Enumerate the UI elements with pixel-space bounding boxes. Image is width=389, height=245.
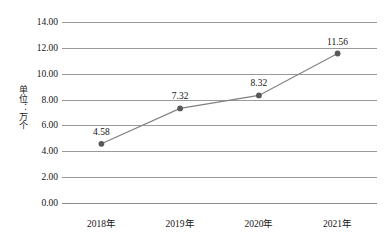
data-point-label: 4.58: [93, 127, 110, 137]
line-chart: 单位：万个 14.0012.0010.008.006.004.002.000.0…: [0, 0, 389, 245]
x-axis-tick-label: 2019年: [166, 219, 195, 230]
data-point-marker: [177, 106, 183, 112]
data-point-marker: [256, 93, 262, 99]
data-point-marker: [335, 51, 341, 57]
x-axis-tick-label: 2018年: [87, 219, 116, 230]
data-point-label: 8.32: [251, 78, 268, 88]
x-axis-tick-label: 2021年: [323, 219, 352, 230]
data-point-label: 7.32: [172, 91, 189, 101]
data-point-label: 11.56: [327, 37, 348, 47]
data-point-marker: [99, 141, 105, 147]
series-line: [101, 54, 337, 144]
x-axis-tick-label: 2020年: [244, 219, 273, 230]
